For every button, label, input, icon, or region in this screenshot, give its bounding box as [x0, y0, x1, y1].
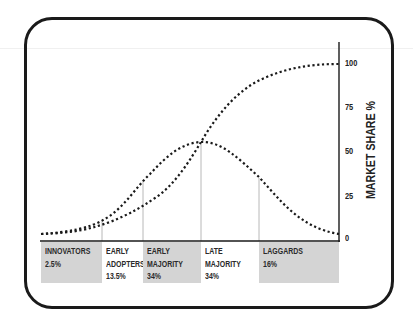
y-tick-25: 25 — [345, 191, 353, 201]
y-tick-0: 0 — [345, 233, 349, 243]
y-tick-75: 75 — [345, 102, 353, 112]
bell-curve — [41, 142, 339, 234]
y-axis-label: MARKET SHARE % — [364, 101, 378, 199]
s-curve — [41, 64, 339, 234]
y-tick-50: 50 — [345, 146, 353, 156]
y-tick-100: 100 — [345, 58, 357, 68]
plot-area — [0, 0, 413, 328]
